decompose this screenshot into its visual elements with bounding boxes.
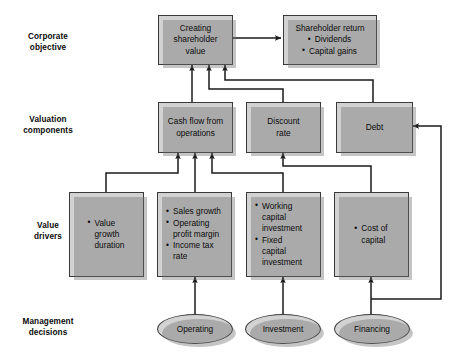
row-label-line1: Valuation	[6, 114, 90, 125]
bullet-line1: Fixed	[262, 235, 282, 245]
bullet-line1: Cost of	[361, 223, 387, 233]
bullet-working-capital-investment: Working capital investment	[256, 201, 315, 235]
bullet-line2: rate	[173, 251, 187, 261]
node-line1: Discount	[247, 116, 320, 127]
bullet-line2: capital	[262, 212, 286, 222]
node-bullet-list: Value growth duration	[70, 218, 148, 252]
row-label-line1: Management	[6, 316, 90, 327]
node-heading: Shareholder return	[284, 23, 376, 34]
bullet-sales-growth: Sales growth	[167, 206, 226, 217]
bullet-fixed-capital-investment: Fixed capital investment	[256, 235, 315, 269]
bullet-capital-gains: Capital gains	[303, 46, 357, 57]
bullet-income-tax-rate: Income tax rate	[167, 240, 226, 262]
node-line1: Creating	[159, 23, 232, 34]
decision-operating[interactable]: Operating	[157, 314, 233, 344]
node-line2: rate	[247, 128, 320, 139]
node-creating-shareholder-value[interactable]: Creating shareholder value	[158, 15, 233, 65]
node-debt[interactable]: Debt	[336, 102, 413, 153]
bullet-value-growth-duration: Value growth duration	[89, 218, 125, 252]
node-cash-flow-from-operations[interactable]: Cash flow from operations	[158, 102, 233, 153]
edge-costofcapital-to-discount	[283, 153, 371, 192]
node-line2: operations	[159, 128, 232, 139]
node-shareholder-return[interactable]: Shareholder return Dividends Capital gai…	[283, 15, 377, 65]
bullet-dividends: Dividends	[309, 34, 351, 45]
bullet-line1: Sales growth	[173, 206, 221, 216]
node-bullet-list: Working capital investment Fixed capital…	[247, 201, 320, 268]
node-bullet-list: Dividends Capital gains	[284, 34, 381, 56]
row-label-line2: components	[6, 125, 90, 136]
node-value-growth-duration[interactable]: Value growth duration	[69, 192, 144, 277]
bullet-line2: profit margin	[173, 229, 219, 239]
bullet-line2: growth	[95, 229, 120, 239]
decision-label: Financing	[354, 324, 390, 334]
node-discount-rate[interactable]: Discount rate	[246, 102, 321, 153]
row-label-line2: objective	[6, 42, 90, 53]
decision-label: Operating	[177, 324, 213, 334]
decision-financing[interactable]: Financing	[334, 314, 410, 344]
bullet-line2: capital	[262, 246, 286, 256]
node-bullet-list: Cost of capital	[335, 223, 413, 245]
edge-growthduration-to-cashflow	[106, 153, 178, 192]
bullet-line2: capital	[361, 235, 385, 245]
node-bullet-list: Sales growth Operating profit margin Inc…	[158, 206, 231, 262]
bullet-line1: Income tax	[173, 240, 214, 250]
node-investment-value-drivers[interactable]: Working capital investment Fixed capital…	[246, 192, 321, 277]
node-cost-of-capital[interactable]: Cost of capital	[334, 192, 409, 277]
bullet-cost-of-capital: Cost of capital	[355, 223, 387, 245]
bullet-line3: investment	[262, 223, 302, 233]
row-label-line1: Corporate	[6, 31, 90, 42]
row-label-valuation-components: Valuation components	[6, 114, 90, 136]
row-label-corporate-objective: Corporate objective	[6, 31, 90, 53]
edge-discount-to-value	[209, 65, 283, 102]
node-line2: shareholder	[159, 34, 232, 45]
edge-debt-to-value	[225, 65, 373, 102]
edge-investmentdrivers-to-cashflow	[212, 153, 283, 192]
node-line3: value	[159, 46, 232, 57]
bullet-line3: duration	[95, 240, 125, 250]
decision-investment[interactable]: Investment	[245, 314, 321, 344]
node-line1: Cash flow from	[159, 116, 232, 127]
bullet-line1: Value	[95, 218, 116, 228]
bullet-line1: Working	[262, 201, 292, 211]
row-label-management-decisions: Management decisions	[6, 316, 90, 338]
decision-label: Investment	[263, 324, 304, 334]
bullet-operating-profit-margin: Operating profit margin	[167, 218, 226, 240]
diagram-canvas: Corporate objective Valuation components…	[0, 0, 464, 364]
node-label: Debt	[337, 122, 412, 133]
node-operating-value-drivers[interactable]: Sales growth Operating profit margin Inc…	[157, 192, 232, 277]
bullet-line1: Operating	[173, 218, 209, 228]
bullet-line3: investment	[262, 257, 302, 267]
row-label-line2: decisions	[6, 327, 90, 338]
